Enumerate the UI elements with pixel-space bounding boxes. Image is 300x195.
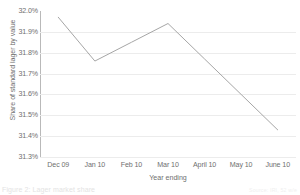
y-tick-label: 31.8%: [18, 49, 38, 57]
y-tick-label: 31.6%: [18, 90, 38, 98]
y-tick-label: 31.4%: [18, 132, 38, 140]
plot-area: [40, 11, 296, 157]
x-tick-label: Dec 09: [47, 161, 69, 169]
x-axis-title: Year ending: [40, 174, 296, 182]
x-tick-label: May 10: [230, 161, 253, 169]
x-axis-tick-labels: Dec 09Jan 10Feb 10Mar 10April 10May 10Ju…: [40, 161, 296, 173]
figure-source: Source: IRI, 52 w/e: [249, 187, 297, 193]
y-tick-label: 31.9%: [18, 28, 38, 36]
gridline: [40, 157, 296, 158]
line-series: [40, 11, 296, 157]
y-axis-tick-labels: 32.0%31.9%31.8%31.7%31.6%31.5%31.4%31.3%: [8, 0, 38, 195]
x-tick-label: April 10: [193, 161, 216, 169]
x-tick-label: June 10: [265, 161, 290, 169]
y-tick-label: 31.5%: [18, 111, 38, 119]
y-tick-label: 31.7%: [18, 70, 38, 78]
series-line: [58, 17, 277, 130]
x-tick-label: Mar 10: [157, 161, 178, 169]
x-tick-label: Jan 10: [84, 161, 105, 169]
figure-caption: Figure 2: Lager market share: [2, 186, 95, 193]
y-tick-label: 32.0%: [18, 7, 38, 15]
chart-figure: Share of standard lager by value 32.0%31…: [0, 0, 300, 195]
x-tick-label: Feb 10: [121, 161, 143, 169]
y-tick-label: 31.3%: [18, 153, 38, 161]
